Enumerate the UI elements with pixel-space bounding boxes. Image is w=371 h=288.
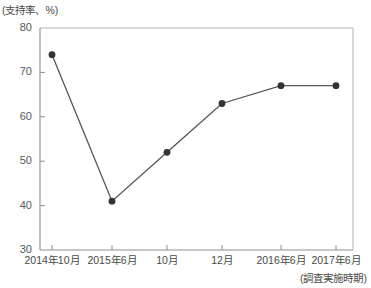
y-tick-50: 50 — [8, 155, 32, 166]
x-axis-ticks — [52, 245, 336, 250]
y-axis-ticks — [40, 72, 45, 205]
y-tick-80: 80 — [8, 22, 32, 33]
y-tick-60: 60 — [8, 111, 32, 122]
line-chart: (支持率、%) 80 70 60 50 40 30 2014年10月 20 — [0, 0, 371, 288]
data-point — [333, 82, 340, 89]
y-tick-40: 40 — [8, 200, 32, 211]
data-point — [109, 198, 116, 205]
data-point — [278, 82, 285, 89]
x-tick-2017-06: 2017年6月 — [292, 255, 371, 266]
series-line-shijiritsu — [52, 55, 336, 202]
plot-area — [0, 0, 371, 288]
x-axis-title: (調査実施時期) — [300, 270, 367, 285]
data-point — [219, 100, 226, 107]
data-point — [49, 51, 56, 58]
x-tick-2015-10: 10月 — [137, 255, 197, 266]
data-point — [164, 149, 171, 156]
y-tick-70: 70 — [8, 66, 32, 77]
